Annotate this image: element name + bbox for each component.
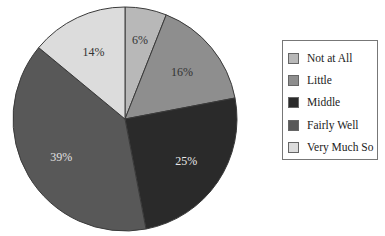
legend-item-middle: Middle <box>288 95 340 109</box>
pie-slice-percent-label: 16% <box>171 65 193 79</box>
legend-label: Little <box>307 74 332 86</box>
pie-slice-percent-label: 25% <box>175 154 197 168</box>
legend-swatch <box>288 120 299 131</box>
legend-label: Middle <box>307 96 340 108</box>
legend-label: Fairly Well <box>307 119 359 131</box>
legend-item-not-at-all: Not at All <box>288 51 352 65</box>
legend-swatch <box>288 142 299 153</box>
pie-slices <box>13 7 237 231</box>
legend-item-very-much-so: Very Much So <box>288 140 373 154</box>
legend-swatch <box>288 75 299 86</box>
legend-item-fairly-well: Fairly Well <box>288 118 359 132</box>
legend-label: Very Much So <box>307 141 373 153</box>
legend: Not at All Little Middle Fairly Well Ver… <box>282 40 378 160</box>
legend-label: Not at All <box>307 52 352 64</box>
pie-chart: 6%16%25%39%14% <box>0 0 250 236</box>
legend-swatch <box>288 53 299 64</box>
pie-slice-percent-label: 14% <box>83 45 105 59</box>
legend-swatch <box>288 97 299 108</box>
pie-slice-percent-label: 6% <box>132 33 148 47</box>
pie-slice-percent-label: 39% <box>50 150 72 164</box>
legend-item-little: Little <box>288 73 332 87</box>
